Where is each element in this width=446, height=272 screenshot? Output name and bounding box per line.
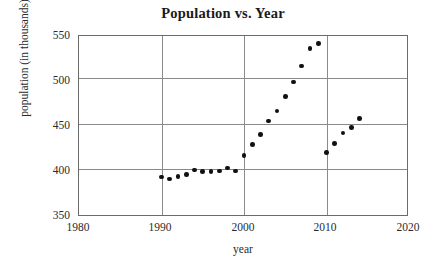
data-point xyxy=(250,142,255,147)
data-point xyxy=(192,168,197,173)
page-title: Population vs. Year xyxy=(0,5,446,22)
gridline-x-2000 xyxy=(244,36,245,215)
x-axis-tick-1990: 1990 xyxy=(130,221,190,233)
data-point xyxy=(283,94,288,99)
data-point xyxy=(200,169,205,174)
data-point xyxy=(316,41,321,46)
x-axis-tick-1980: 1980 xyxy=(48,221,108,233)
x-axis-tick-2010: 2010 xyxy=(295,221,355,233)
data-point xyxy=(209,169,214,174)
data-point xyxy=(275,109,280,114)
data-point xyxy=(242,153,247,158)
data-point xyxy=(324,150,329,155)
chart-page: Population vs. Year 550 500 450 400 350 … xyxy=(0,0,446,272)
data-point xyxy=(341,131,346,136)
data-point xyxy=(332,141,337,146)
gridline-x-1990 xyxy=(162,36,163,215)
data-point xyxy=(308,46,313,51)
y-axis-label: population (in thousands) xyxy=(18,0,30,148)
data-point xyxy=(349,125,354,130)
data-point xyxy=(357,116,362,121)
data-point xyxy=(184,172,189,177)
y-axis-tick-350: 350 xyxy=(10,209,70,221)
x-axis-label: year xyxy=(78,243,408,255)
gridline-y-500 xyxy=(79,78,407,79)
data-point xyxy=(291,80,296,85)
data-point xyxy=(167,177,172,182)
data-point xyxy=(258,132,263,137)
gridline-x-2010 xyxy=(327,36,328,215)
x-axis-tick-2020: 2020 xyxy=(378,221,438,233)
plot-area xyxy=(78,35,408,216)
data-point xyxy=(233,169,238,174)
data-point xyxy=(217,169,222,174)
data-point xyxy=(159,175,164,180)
x-axis-tick-2000: 2000 xyxy=(213,221,273,233)
data-point xyxy=(176,174,181,179)
gridline-y-400 xyxy=(79,169,407,170)
gridline-y-450 xyxy=(79,124,407,125)
data-point xyxy=(299,64,304,69)
y-axis-tick-400: 400 xyxy=(10,164,70,176)
